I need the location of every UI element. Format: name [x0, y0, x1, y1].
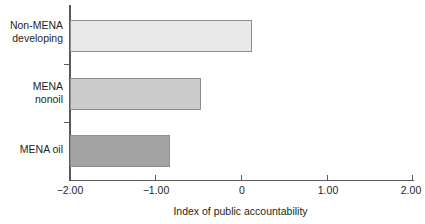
x-tick-label-neg2: −2.00 [57, 184, 84, 196]
bar-mena-oil [70, 135, 170, 167]
x-axis-tick [412, 175, 413, 181]
bar-row [0, 20, 425, 52]
bar-row [0, 78, 425, 110]
x-tick-label-pos1: 1.00 [318, 184, 338, 196]
x-axis-title: Index of public accountability [0, 205, 425, 217]
bar-mena-nonoil [70, 78, 201, 110]
x-axis-tick [241, 175, 242, 181]
x-tick-label-zero: 0 [239, 184, 245, 196]
x-axis-tick [69, 175, 70, 181]
x-tick-label-neg1: −1.00 [143, 184, 170, 196]
x-tick-label-pos2: 2.00 [401, 184, 421, 196]
bar-chart: Non-MENA developing MENA nonoil MENA oil… [0, 0, 425, 224]
x-axis-tick [327, 175, 328, 181]
y-axis-tick [64, 122, 69, 123]
y-axis-tick [64, 64, 69, 65]
x-axis-tick [155, 175, 156, 181]
bar-row [0, 135, 425, 167]
bar-non-mena-developing [70, 20, 252, 52]
x-axis-title-text: Index of public accountability [117, 205, 307, 217]
